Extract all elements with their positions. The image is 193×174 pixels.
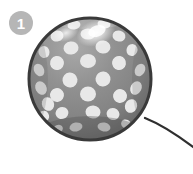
annotation-badge[interactable]: 1 [9,11,33,35]
balloon-bottom-shading [20,116,160,174]
screenshot-canvas: 1 [0,0,193,174]
balloon-string [145,118,193,147]
balloon-illustration: 1 [0,0,193,174]
balloon-dot [80,87,96,102]
polka-dot-balloon [0,11,192,174]
balloon-dot [80,54,96,68]
annotation-badge-label: 1 [17,15,25,32]
